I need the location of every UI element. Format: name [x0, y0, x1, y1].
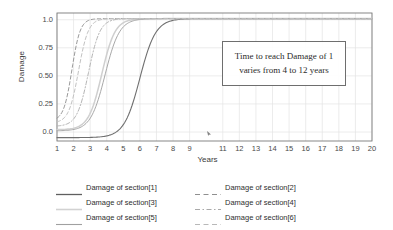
- annotation-line-1: Time to reach Damage of 1: [235, 50, 333, 64]
- y-tick-label: 0.25: [23, 99, 53, 108]
- legend-item-label: Damage of section[1]: [86, 183, 157, 192]
- legend-item-label: Damage of section[4]: [225, 198, 296, 207]
- legend-line-swatch-icon: [56, 199, 82, 206]
- legend-line-swatch-icon: [195, 184, 221, 191]
- legend-item-label: Damage of section[3]: [86, 198, 157, 207]
- legend-line-swatch-icon: [195, 214, 221, 221]
- legend-row: Damage of section[1]Damage of section[2]: [0, 180, 393, 195]
- annotation-box: Time to reach Damage of 1 varies from 4 …: [222, 41, 346, 86]
- legend-line-swatch-icon: [56, 214, 82, 221]
- x-tick-label: 9: [180, 144, 200, 153]
- x-axis-title-text: Years: [175, 155, 217, 164]
- chart-legend: Damage of section[1]Damage of section[2]…: [0, 180, 393, 225]
- y-tick-label: 0.50: [23, 71, 53, 80]
- damage-vs-years-chart: Damage Years Time to reach Damage of 1 v…: [0, 0, 393, 230]
- legend-item[interactable]: Damage of section[1]: [56, 183, 195, 192]
- y-tick-label: 0.75: [23, 43, 53, 52]
- legend-item[interactable]: Damage of section[5]: [56, 213, 195, 222]
- y-tick-label: 1.0: [23, 15, 53, 24]
- x-axis-title: Years: [0, 155, 393, 164]
- annotation-line-2: varies from 4 to 12 years: [239, 64, 329, 78]
- legend-line-swatch-icon: [195, 199, 221, 206]
- legend-item-label: Damage of section[5]: [86, 213, 157, 222]
- legend-item-label: Damage of section[2]: [225, 183, 296, 192]
- legend-item-label: Damage of section[6]: [225, 213, 296, 222]
- legend-line-swatch-icon: [56, 184, 82, 191]
- legend-item[interactable]: Damage of section[2]: [195, 183, 337, 192]
- legend-item[interactable]: Damage of section[6]: [195, 213, 337, 222]
- x-tick-label: 20: [362, 144, 382, 153]
- legend-item[interactable]: Damage of section[4]: [195, 198, 337, 207]
- legend-item[interactable]: Damage of section[3]: [56, 198, 195, 207]
- y-tick-label: 0.0: [23, 127, 53, 136]
